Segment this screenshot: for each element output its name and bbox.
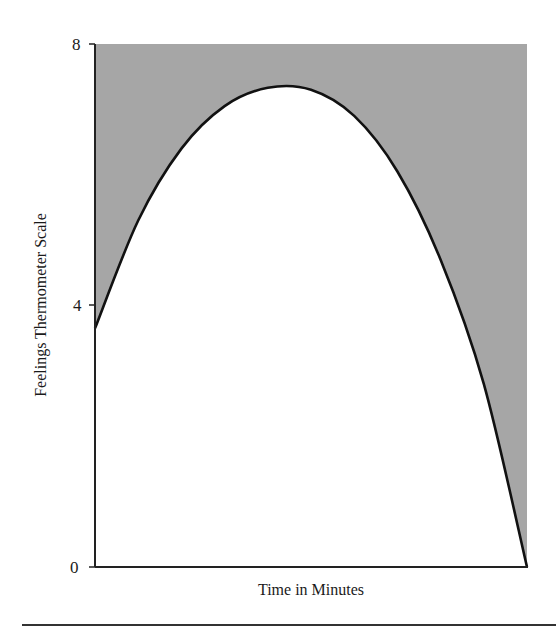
shaded-region	[95, 44, 527, 567]
x-axis-title: Time in Minutes	[258, 581, 364, 599]
y-axis-title: Feelings Thermometer Scale	[32, 213, 50, 397]
bottom-rule	[22, 624, 556, 626]
y-tick-label-0: 0	[70, 559, 79, 576]
y-tick-label-8: 8	[72, 36, 81, 53]
y-tick-label-4: 4	[73, 297, 82, 314]
chart-plot-area	[0, 0, 556, 636]
